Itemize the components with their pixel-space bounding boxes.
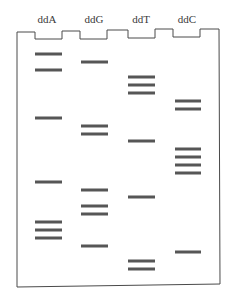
gel-band	[175, 148, 201, 151]
gel-band	[175, 108, 201, 111]
gel-band	[128, 76, 155, 79]
gel-bands	[35, 53, 201, 271]
gel-band	[81, 189, 108, 192]
gel-band	[35, 229, 62, 232]
lane-ddt	[128, 76, 155, 271]
lane-label-ddt: ddT	[132, 13, 150, 25]
gel-band	[81, 245, 108, 248]
gel-band	[35, 181, 62, 184]
lane-label-ddg: ddG	[85, 13, 104, 25]
lane-dda	[35, 53, 62, 240]
gel-band	[35, 237, 62, 240]
gel-band	[175, 172, 201, 175]
gel-band	[175, 156, 201, 159]
gel-band	[128, 140, 155, 143]
gel-band	[175, 164, 201, 167]
gel-band	[81, 205, 108, 208]
sequencing-gel-diagram: ddAddGddTddC	[0, 0, 234, 300]
gel-band	[175, 251, 201, 254]
gel-band	[128, 84, 155, 87]
gel-band	[35, 117, 62, 120]
gel-band	[128, 268, 155, 271]
gel-band	[81, 133, 108, 136]
gel-band	[35, 221, 62, 224]
gel-band	[175, 100, 201, 103]
gel-band	[81, 125, 108, 128]
gel-band	[35, 53, 62, 56]
gel-band	[35, 69, 62, 72]
lane-labels: ddAddGddTddC	[38, 13, 197, 25]
lane-label-ddc: ddC	[178, 13, 196, 25]
lane-ddc	[175, 100, 201, 254]
lane-label-dda: ddA	[38, 13, 57, 25]
gel-band	[128, 92, 155, 95]
gel-band	[81, 61, 108, 64]
gel-band	[128, 260, 155, 263]
lane-ddg	[81, 61, 108, 248]
gel-band	[128, 196, 155, 199]
gel-band	[81, 213, 108, 216]
